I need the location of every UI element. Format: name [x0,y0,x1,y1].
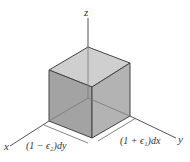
deformed-cube-diagram: z x y (1 − ϵ₂)dy (1 + ϵ₁)dx [0,0,190,162]
y-axis-label: y [177,133,183,145]
z-axis-label: z [83,6,89,18]
dimension-label-dx: (1 + ϵ₁)dx [120,135,161,147]
x-axis-label: x [3,140,9,152]
dimension-label-dy: (1 − ϵ₂)dy [26,140,67,152]
